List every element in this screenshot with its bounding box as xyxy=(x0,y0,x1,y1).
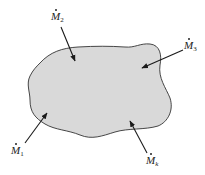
flow-label-m3: M3 xyxy=(184,40,197,53)
flow-label-m1: M1 xyxy=(11,145,24,158)
flow-label-m2: M2 xyxy=(51,11,64,24)
control-volume-region xyxy=(28,44,171,137)
flow-label-mk: Mk xyxy=(146,155,158,168)
control-volume-diagram xyxy=(0,0,205,175)
